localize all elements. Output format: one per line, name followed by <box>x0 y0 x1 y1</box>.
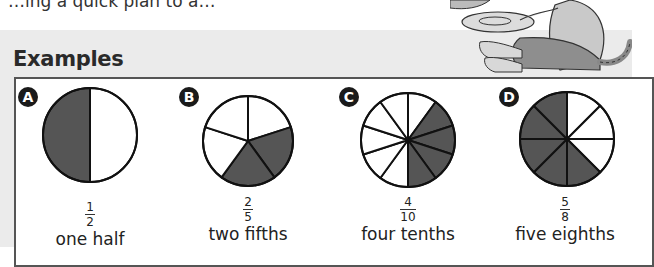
example-badge-letter: A <box>23 89 34 105</box>
fraction-label: 58five eighths <box>495 196 635 244</box>
pie-example-a: A <box>18 87 137 182</box>
pie-sector-shaded <box>43 88 90 182</box>
fraction-number: 25 <box>243 196 253 223</box>
pie-example-b: B <box>179 87 293 186</box>
example-badge-letter: D <box>503 89 515 105</box>
fraction-words: four tenths <box>338 225 478 244</box>
example-badge-letter: C <box>344 89 354 105</box>
fraction-denominator: 2 <box>85 215 95 228</box>
fraction-numerator: 2 <box>243 196 253 210</box>
fraction-denominator: 10 <box>400 210 415 223</box>
fraction-numerator: 1 <box>85 201 95 215</box>
fraction-label: 12one half <box>20 201 160 249</box>
fraction-label: 410four tenths <box>338 196 478 244</box>
pie-sector-unshaded <box>90 88 137 182</box>
fraction-words: five eighths <box>495 225 635 244</box>
fraction-number: 12 <box>85 201 95 228</box>
fraction-words: one half <box>20 230 160 249</box>
fraction-denominator: 5 <box>243 210 253 223</box>
fraction-number: 58 <box>560 196 570 223</box>
pie-example-c: C <box>339 87 455 187</box>
fraction-label: 25two fifths <box>178 196 318 244</box>
pie-example-d: D <box>499 87 614 186</box>
fraction-denominator: 8 <box>560 210 570 223</box>
fraction-number: 410 <box>400 196 415 223</box>
example-badge-letter: B <box>184 89 195 105</box>
fraction-numerator: 4 <box>400 196 415 210</box>
fraction-numerator: 5 <box>560 196 570 210</box>
fraction-words: two fifths <box>178 225 318 244</box>
